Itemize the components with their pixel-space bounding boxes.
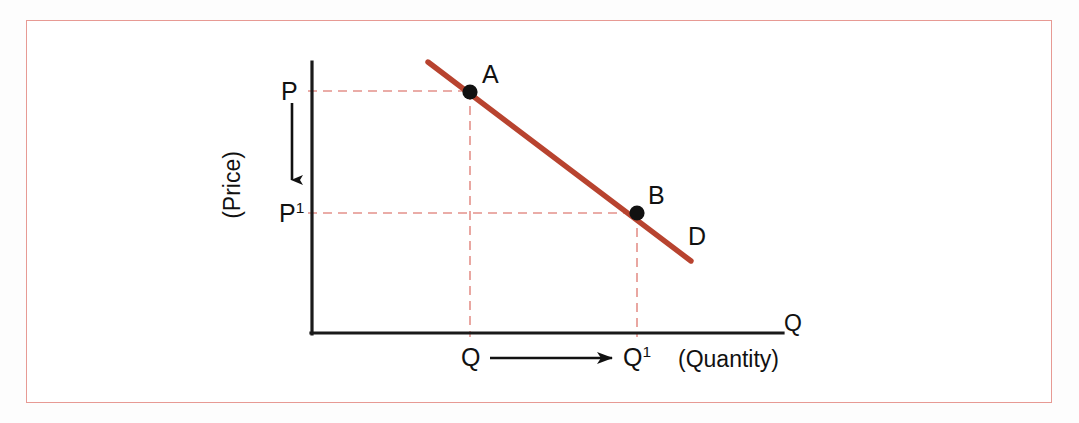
tick-label-price-low: P1	[279, 201, 304, 226]
demand-curve-plot	[0, 0, 1079, 423]
tick-label-quantity-high: Q1	[623, 345, 651, 370]
tick-label-price-high: P	[281, 79, 298, 104]
x-axis-symbol: Q	[784, 312, 802, 335]
figure-canvas: (Price) P P1 A B D Q Q Q1 (Quantity)	[0, 0, 1079, 423]
tick-label-price-low-base: P	[279, 199, 296, 227]
point-label-a: A	[482, 62, 499, 87]
data-point-a	[462, 84, 477, 99]
point-label-b: B	[648, 183, 665, 208]
tick-label-quantity-high-sup: 1	[642, 343, 651, 360]
x-axis-title: (Quantity)	[678, 348, 779, 371]
y-axis-title: (Price)	[219, 151, 246, 219]
data-point-b	[629, 205, 644, 220]
tick-label-quantity-high-base: Q	[623, 343, 642, 371]
curve-label-d: D	[688, 224, 706, 249]
tick-label-quantity-low: Q	[461, 345, 480, 370]
tick-label-price-low-sup: 1	[296, 199, 305, 216]
